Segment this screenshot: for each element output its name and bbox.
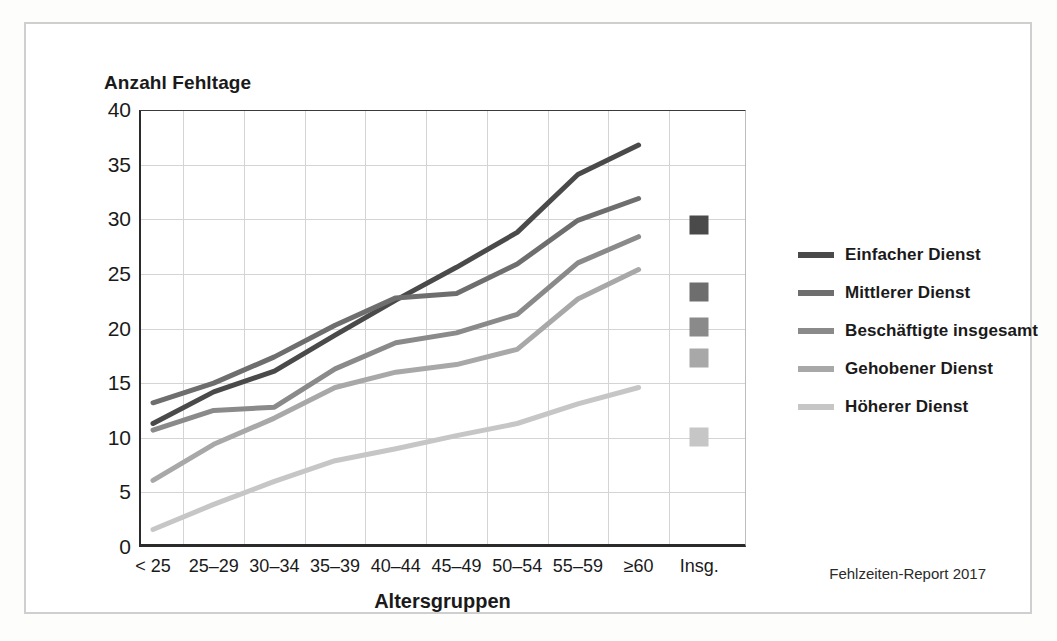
legend-item-1[interactable]: Einfacher Dienst bbox=[798, 236, 1057, 274]
legend-item-4[interactable]: Gehobener Dienst bbox=[798, 350, 1057, 388]
legend-swatch-icon bbox=[798, 404, 834, 410]
total-marker bbox=[690, 283, 709, 302]
gridline-horizontal bbox=[139, 547, 746, 548]
y-tick-label: 0 bbox=[85, 536, 131, 557]
total-marker bbox=[690, 318, 709, 337]
legend: Einfacher DienstMittlerer DienstBeschäft… bbox=[798, 236, 1057, 426]
legend-swatch-icon bbox=[798, 328, 834, 334]
y-tick-label: 25 bbox=[85, 263, 131, 284]
series-line bbox=[153, 145, 639, 424]
page-title: Anzahl Fehltage bbox=[104, 72, 251, 94]
x-axis-title: Altersgruppen bbox=[139, 590, 746, 613]
legend-item-label: Gehobener Dienst bbox=[845, 359, 993, 379]
x-axis-tick-labels: < 2525–2930–3435–3940–4445–4950–5455–59≥… bbox=[139, 555, 799, 585]
x-tick-label: Insg. bbox=[680, 555, 719, 577]
y-tick-label: 35 bbox=[85, 154, 131, 175]
x-tick-label: 25–29 bbox=[189, 555, 239, 577]
y-tick-label: 5 bbox=[85, 481, 131, 502]
x-tick-label: ≥60 bbox=[624, 555, 654, 577]
y-tick-label: 20 bbox=[85, 318, 131, 339]
x-tick-label: 55–59 bbox=[553, 555, 603, 577]
y-tick-label: 15 bbox=[85, 372, 131, 393]
legend-item-5[interactable]: Höherer Dienst bbox=[798, 388, 1057, 426]
x-tick-label: 30–34 bbox=[249, 555, 299, 577]
plot-area bbox=[139, 110, 746, 547]
legend-item-2[interactable]: Mittlerer Dienst bbox=[798, 274, 1057, 312]
y-axis-tick-labels: 4035302520151050 bbox=[71, 110, 131, 547]
x-tick-label: 45–49 bbox=[431, 555, 481, 577]
x-tick-label: 40–44 bbox=[371, 555, 421, 577]
legend-swatch-icon bbox=[798, 252, 834, 258]
legend-item-label: Höherer Dienst bbox=[845, 397, 968, 417]
x-tick-label: 50–54 bbox=[492, 555, 542, 577]
series-line bbox=[153, 237, 639, 430]
series-lines bbox=[139, 110, 746, 547]
figure-frame: Anzahl Fehltage 4035302520151050 < 2525–… bbox=[24, 22, 1032, 614]
legend-swatch-icon bbox=[798, 366, 834, 372]
y-tick-label: 10 bbox=[85, 427, 131, 448]
legend-item-3[interactable]: Beschäftigte insgesamt bbox=[798, 312, 1057, 350]
total-marker bbox=[690, 348, 709, 367]
x-tick-label: < 25 bbox=[135, 555, 171, 577]
screenshot-page: Anzahl Fehltage 4035302520151050 < 2525–… bbox=[0, 0, 1057, 641]
total-marker bbox=[690, 427, 709, 446]
total-marker bbox=[690, 215, 709, 234]
legend-item-label: Einfacher Dienst bbox=[845, 245, 981, 265]
legend-swatch-icon bbox=[798, 290, 834, 296]
y-tick-label: 40 bbox=[85, 99, 131, 120]
y-tick-label: 30 bbox=[85, 208, 131, 229]
source-credit: Fehlzeiten-Report 2017 bbox=[829, 565, 986, 582]
legend-item-label: Beschäftigte insgesamt bbox=[845, 321, 1038, 341]
x-tick-label: 35–39 bbox=[310, 555, 360, 577]
legend-item-label: Mittlerer Dienst bbox=[845, 283, 970, 303]
